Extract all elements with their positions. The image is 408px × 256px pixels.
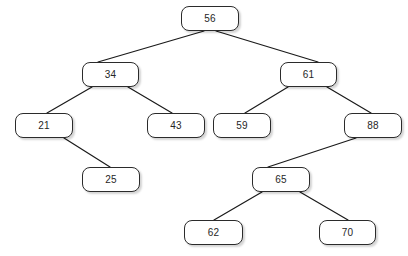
tree-edge-n65-n62 bbox=[214, 192, 262, 220]
tree-node-label: 25 bbox=[105, 175, 117, 185]
tree-node-88[interactable]: 88 bbox=[344, 113, 402, 138]
tree-node-25[interactable]: 25 bbox=[82, 167, 140, 192]
tree-node-label: 21 bbox=[38, 121, 50, 131]
tree-node-56[interactable]: 56 bbox=[181, 6, 239, 31]
tree-node-label: 70 bbox=[342, 228, 354, 238]
tree-edge-n34-n21 bbox=[47, 87, 92, 113]
tree-edge-n56-n61 bbox=[216, 31, 318, 62]
tree-node-21[interactable]: 21 bbox=[15, 113, 73, 138]
tree-node-label: 62 bbox=[208, 228, 220, 238]
tree-node-34[interactable]: 34 bbox=[82, 62, 139, 87]
tree-node-59[interactable]: 59 bbox=[213, 113, 271, 138]
tree-edge-n61-n59 bbox=[245, 87, 288, 113]
tree-diagram-canvas: 5634612143598825656270 bbox=[0, 0, 408, 256]
tree-node-70[interactable]: 70 bbox=[319, 220, 376, 245]
tree-edge-n65-n70 bbox=[300, 192, 348, 220]
tree-edge-n61-n88 bbox=[327, 87, 371, 113]
tree-node-label: 61 bbox=[303, 70, 315, 80]
tree-node-62[interactable]: 62 bbox=[184, 220, 243, 245]
tree-node-61[interactable]: 61 bbox=[280, 62, 337, 87]
tree-edge-n34-n43 bbox=[128, 87, 172, 113]
tree-node-43[interactable]: 43 bbox=[147, 113, 205, 138]
tree-node-label: 43 bbox=[170, 121, 182, 131]
tree-node-label: 56 bbox=[204, 14, 216, 24]
tree-node-65[interactable]: 65 bbox=[252, 167, 310, 192]
tree-node-label: 59 bbox=[236, 121, 248, 131]
tree-node-label: 34 bbox=[105, 70, 117, 80]
tree-node-label: 88 bbox=[367, 121, 379, 131]
tree-node-label: 65 bbox=[275, 175, 287, 185]
tree-edge-n88-n65 bbox=[268, 138, 356, 167]
tree-edge-n21-n25 bbox=[64, 138, 110, 167]
tree-edge-n56-n34 bbox=[98, 31, 204, 62]
